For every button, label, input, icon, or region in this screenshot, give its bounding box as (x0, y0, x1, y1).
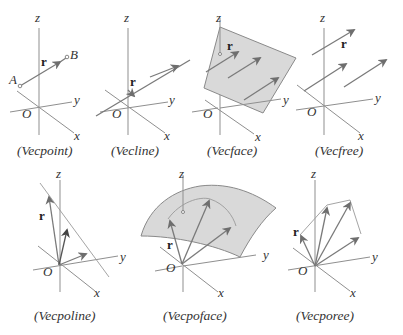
vector-r-label: r (41, 54, 47, 69)
panel-vecpoline: z y x O r (Vecpoline) (33, 166, 126, 323)
y-label: y (167, 92, 175, 107)
x-label: x (254, 129, 261, 144)
vector-r (301, 236, 315, 266)
z-label: z (319, 10, 325, 25)
point-a (18, 84, 22, 88)
x-label: x (93, 285, 100, 300)
panel-vecfree: z y x O r (Vecfree) (296, 10, 386, 158)
vector-r-label: r (130, 74, 136, 89)
point-b-label: B (70, 47, 78, 62)
origin-label: O (307, 104, 317, 119)
vector-3 (344, 60, 386, 87)
x-label: x (217, 285, 224, 300)
z-label: z (310, 166, 316, 181)
x-label: x (349, 285, 356, 300)
vector-r-tail (60, 58, 66, 62)
z-label: z (178, 166, 184, 181)
curved-surface (141, 185, 276, 257)
origin-label: O (203, 106, 213, 121)
vector-r-label: r (39, 208, 45, 223)
vector-r (312, 30, 354, 55)
z-label: z (55, 166, 61, 181)
panel-vecporee: z y x O r (Vecporee) (288, 166, 378, 323)
caption: (Vecfree) (315, 143, 364, 158)
vector-r-label: r (227, 38, 233, 53)
caption: (Vecface) (207, 143, 258, 158)
panel-vecline: z y x O r (Vecline) (96, 10, 190, 158)
point-a-label: A (8, 72, 17, 87)
y-label: y (72, 92, 80, 107)
panel-vecpoint: z y x O A B r (Vecpoint) (8, 10, 80, 158)
vector-types-figure: z y x O A B r (Vecpoint) z y x O r (Vecl… (0, 0, 403, 335)
origin-label: O (43, 264, 53, 279)
z-pierce-point (219, 53, 222, 56)
y-label: y (373, 90, 381, 105)
x-label: x (357, 128, 364, 143)
origin-label: O (166, 260, 176, 275)
x-label: x (163, 128, 170, 143)
caption: (Vecporee) (296, 308, 354, 323)
vector-2 (304, 64, 346, 91)
caption: (Vecpoface) (163, 308, 227, 323)
origin-label: O (298, 263, 308, 278)
caption: (Vecpoint) (17, 143, 73, 158)
panel-vecpoface: z y x O r (Vecpoface) (141, 166, 276, 323)
x-label: x (73, 128, 80, 143)
y-label: y (118, 249, 126, 264)
tip-polygon (300, 200, 361, 235)
y-axis (10, 102, 72, 112)
y-axis (183, 255, 256, 266)
z-label: z (123, 10, 129, 25)
y-label: y (370, 249, 378, 264)
panel-vecface: z y x O r (Vecface) (192, 10, 296, 158)
y-label: y (261, 247, 269, 262)
line-of-action (96, 60, 190, 116)
z-label: z (215, 10, 221, 25)
y-label: y (281, 92, 289, 107)
vector-r-label: r (293, 224, 299, 239)
caption: (Vecpoline) (34, 308, 96, 323)
point-b (65, 55, 69, 59)
origin-label: O (22, 106, 32, 121)
z-pierce-point (182, 211, 185, 214)
origin-label: O (112, 106, 122, 121)
vector-4 (315, 238, 358, 266)
caption: (Vecline) (111, 143, 159, 158)
vector-r (20, 62, 60, 86)
vector-r-label: r (167, 237, 173, 252)
z-label: z (34, 10, 40, 25)
vector-r-label: r (341, 36, 347, 51)
